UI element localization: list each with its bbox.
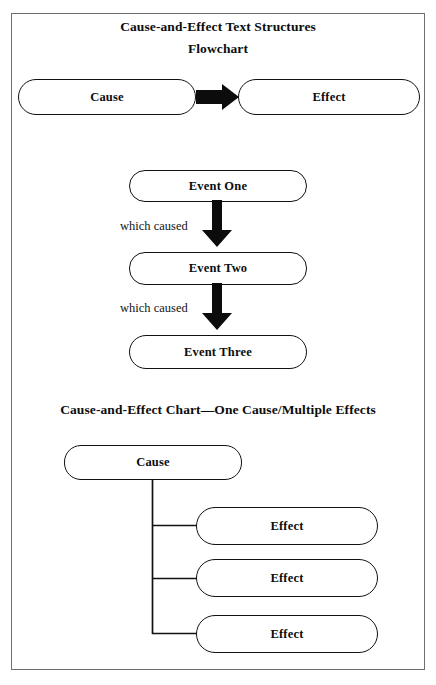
chart-cause-node: Cause <box>64 445 242 480</box>
flowchart-effect-label: Effect <box>312 90 345 105</box>
event-one-node: Event One <box>129 170 307 202</box>
flowchart-cause-node: Cause <box>18 79 196 115</box>
event-three-label: Event Three <box>184 345 252 360</box>
chart-effect-label-2: Effect <box>270 571 303 586</box>
event-one-label: Event One <box>189 179 247 194</box>
chart-cause-label: Cause <box>136 455 170 470</box>
flowchart-effect-node: Effect <box>238 79 420 115</box>
flowchart-section-title: Flowchart <box>11 41 425 57</box>
page-title: Cause-and-Effect Text Structures <box>11 19 425 35</box>
connector-caption-two: which caused <box>120 301 188 316</box>
chart-effect-node-1: Effect <box>196 507 378 545</box>
chart-effect-node-2: Effect <box>196 559 378 597</box>
cause-effect-chart-section-title: Cause-and-Effect Chart—One Cause/Multipl… <box>11 402 425 418</box>
chart-effect-label-1: Effect <box>270 519 303 534</box>
event-two-label: Event Two <box>189 261 248 276</box>
chart-effect-node-3: Effect <box>196 615 378 653</box>
flowchart-cause-label: Cause <box>90 90 124 105</box>
connector-caption-one: which caused <box>120 219 188 234</box>
event-three-node: Event Three <box>129 335 307 369</box>
event-two-node: Event Two <box>129 252 307 285</box>
chart-effect-label-3: Effect <box>270 627 303 642</box>
figure-page: Cause-and-Effect Text Structures Flowcha… <box>0 0 436 685</box>
